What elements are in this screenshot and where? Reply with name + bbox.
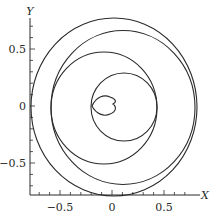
x-axis-label: X xyxy=(200,189,210,202)
curve-central-cardioid xyxy=(92,96,115,115)
x-tick-label-0.5: 0.5 xyxy=(155,201,173,214)
x-tick-label-0: 0 xyxy=(109,201,116,214)
x-tick-label-neg0.5: −0.5 xyxy=(47,201,74,214)
x-ticks xyxy=(39,190,185,195)
curve-outer-ring xyxy=(31,18,197,196)
curve-inner-loop xyxy=(91,73,157,141)
y-tick-label-0: 0 xyxy=(19,100,26,113)
curve-second-ring xyxy=(51,31,195,185)
y-tick-label-neg0.5: −0.5 xyxy=(0,157,26,170)
curve-third-ring xyxy=(51,52,157,164)
y-tick-label-0.5: 0.5 xyxy=(9,43,27,56)
y-axis-label: Y xyxy=(26,5,35,18)
plot-canvas: 0.5 0 −0.5 −0.5 0 0.5 Y X xyxy=(0,0,213,216)
